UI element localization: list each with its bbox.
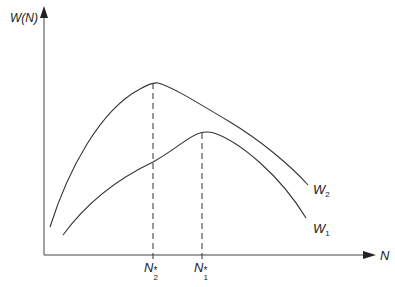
n1-star-label: N*1 [194,261,208,281]
y-axis-arrow-icon [40,6,48,18]
chart-canvas [0,0,395,287]
w2-label: W2 [313,183,330,199]
x-axis-arrow-icon [363,251,376,259]
n2-star-label: N*2 [144,261,158,281]
curve-w1 [63,132,306,235]
w1-label: W1 [313,222,330,238]
x-axis-label: N [380,249,389,262]
y-axis-label: W(N) [10,12,38,24]
